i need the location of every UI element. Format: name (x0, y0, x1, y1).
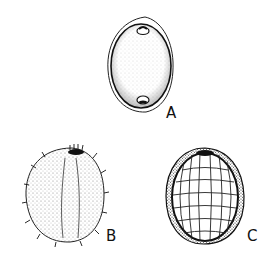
seed-b-illustration (22, 144, 109, 247)
panel-label-b: B (106, 229, 116, 244)
seed-c-illustration (166, 148, 244, 244)
panel-label-c: C (247, 229, 257, 244)
figure-canvas (0, 0, 272, 260)
seed-a-illustration (108, 17, 173, 112)
panel-label-a: A (166, 106, 176, 121)
